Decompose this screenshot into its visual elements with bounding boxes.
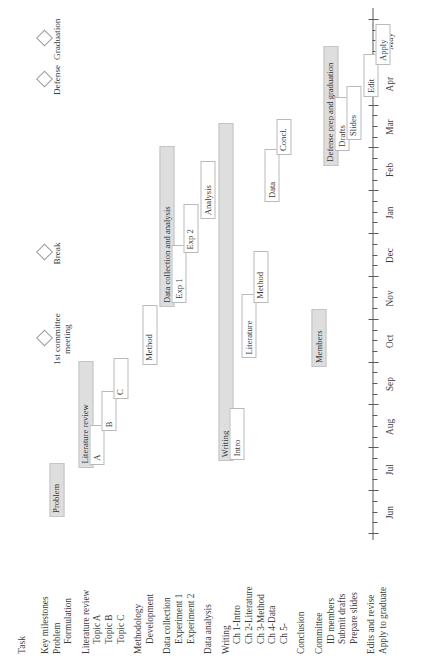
gantt-plot-area: JunJulAugSepOctNovDecJanFebMarAprMay Pro…: [0, 8, 433, 540]
axis-tick-minor: [372, 372, 377, 373]
gantt-bar-label: Writing: [221, 431, 230, 457]
gantt-bar-ch1-intro[interactable]: Intro: [229, 408, 244, 461]
gantt-bar-prepare-slides[interactable]: Slides: [346, 86, 361, 140]
figure-rotation-wrapper: TaskKey milestonesProblemFormulationLite…: [0, 0, 433, 658]
task-label-writing: Writing: [221, 625, 230, 654]
axis-tick-minor: [372, 426, 377, 427]
axis-tick-minor: [372, 415, 377, 416]
task-label-data-collection: Data collection: [162, 597, 171, 654]
axis-tick-minor: [372, 479, 377, 480]
gantt-bar-ch5-conclusion[interactable]: Concl.: [276, 119, 291, 155]
month-label-nov: Nov: [384, 290, 394, 306]
axis-tick-major: [368, 105, 378, 106]
gantt-bar-label: Slides: [349, 115, 358, 136]
gantt-bar-label: Data collection and analysis: [163, 206, 172, 303]
axis-tick-minor: [372, 222, 377, 223]
month-label-jun: Jun: [384, 506, 394, 519]
axis-tick-major: [368, 319, 378, 320]
axis-tick-minor: [372, 126, 377, 127]
gantt-bar-data-analysis[interactable]: Analysis: [200, 161, 215, 219]
task-label-problem: Problem: [52, 622, 61, 654]
axis-tick-minor: [372, 137, 377, 138]
gantt-bar-label: Drafts: [337, 125, 346, 146]
axis-tick-major: [368, 447, 378, 448]
gantt-bar-label: Method: [256, 272, 265, 299]
task-label-experiment-2: Experiment 2: [186, 594, 195, 644]
gantt-bar-experiment-2[interactable]: Exp 2: [183, 204, 198, 253]
axis-tick-minor: [372, 158, 377, 159]
gantt-bar-label: Method: [145, 334, 154, 361]
gantt-bar-label: Concl.: [279, 128, 288, 151]
axis-tick-minor: [372, 330, 377, 331]
month-label-jan: Jan: [384, 207, 394, 219]
task-label-ch-2-literature: Ch 2-Literature: [244, 586, 253, 644]
gantt-bar-ch4-data[interactable]: Data: [264, 149, 279, 203]
axis-tick-minor: [372, 340, 377, 341]
gantt-bar-label: Analysis: [203, 185, 212, 215]
task-label-submit-drafts: Submit drafts: [337, 594, 346, 644]
task-label-edits-and-revise: Edits and revise: [366, 595, 375, 654]
milestone-diamond-break[interactable]: [36, 244, 53, 261]
axis-tick-major: [368, 362, 378, 363]
gantt-bar-topic-c[interactable]: C: [113, 358, 128, 399]
gantt-bar-experiment-1[interactable]: Exp 1: [171, 245, 186, 303]
axis-tick-major: [368, 233, 378, 234]
axis-tick-major: [368, 19, 378, 20]
axis-tick-minor: [372, 201, 377, 202]
gantt-bar-committee-members[interactable]: Members: [311, 309, 326, 367]
month-label-mar: Mar: [384, 119, 394, 135]
axis-tick-minor: [372, 212, 377, 213]
axis-tick-minor: [372, 297, 377, 298]
gantt-bar-label: Exp 1: [174, 278, 183, 298]
task-label-prepare-slides: Prepare slides: [349, 592, 358, 644]
axis-tick-major: [368, 276, 378, 277]
axis-tick-minor: [372, 394, 377, 395]
axis-tick-minor: [372, 437, 377, 438]
milestone-label-graduation: Graduation: [52, 19, 62, 60]
month-label-dec: Dec: [384, 248, 394, 263]
gantt-bar-label: Intro: [233, 440, 242, 457]
task-label-ch-4-data: Ch 4-Data: [267, 606, 276, 644]
month-label-apr: Apr: [384, 77, 394, 91]
milestone-diamond-defense[interactable]: [36, 70, 53, 87]
task-label-id-members: ID members: [326, 598, 335, 644]
gantt-bar-label: Literature: [244, 321, 253, 355]
axis-tick-minor: [372, 469, 377, 470]
milestone-label-break: Break: [52, 242, 62, 264]
axis-tick-major: [368, 533, 378, 534]
task-label-column: TaskKey milestonesProblemFormulationLite…: [0, 540, 433, 658]
task-label-topic-b: Topic B: [104, 614, 113, 644]
gantt-bar-label: B: [104, 421, 113, 427]
gantt-bar-apply-to-graduate[interactable]: Apply: [375, 24, 390, 65]
axis-tick-minor: [372, 522, 377, 523]
gantt-bar-label: Literature review: [81, 404, 90, 463]
axis-tick-major: [368, 490, 378, 491]
axis-tick-minor: [372, 351, 377, 352]
task-label-conclusion: Conclusion: [296, 612, 305, 654]
milestone-diamond-first-committee-meeting[interactable]: [36, 330, 53, 347]
month-label-jul: Jul: [384, 464, 394, 475]
axis-tick-minor: [372, 115, 377, 116]
gantt-bar-label: Edit: [367, 79, 376, 93]
gantt-bar-label: Problem: [52, 484, 61, 513]
gantt-bar-label: C: [116, 389, 125, 395]
gantt-bar-problem-formulation[interactable]: Problem: [49, 463, 64, 517]
gantt-bar-ch2-literature[interactable]: Literature: [241, 294, 256, 358]
month-label-aug: Aug: [384, 419, 394, 435]
gantt-bar-ch3-method[interactable]: Method: [253, 251, 268, 302]
task-label-methodology: Methodology: [133, 604, 142, 654]
gantt-bar-methodology-dev[interactable]: Method: [142, 305, 157, 365]
gantt-chart: TaskKey milestonesProblemFormulationLite…: [0, 0, 433, 658]
task-label-ch-3-method: Ch 3-Method: [256, 594, 265, 644]
gantt-bar-label: Exp 2: [186, 229, 195, 249]
milestone-diamond-graduation[interactable]: [36, 30, 53, 47]
task-label-literature-review: Literature review: [81, 590, 90, 654]
axis-tick-major: [368, 148, 378, 149]
axis-tick-minor: [372, 287, 377, 288]
axis-tick-minor: [372, 458, 377, 459]
task-label-key-milestones: Key milestones: [40, 596, 49, 654]
task-label-topic-a: Topic A: [92, 614, 101, 644]
task-label-committee: Committee: [314, 613, 323, 654]
gantt-bar-label: Apply: [378, 40, 387, 61]
axis-tick-minor: [372, 383, 377, 384]
